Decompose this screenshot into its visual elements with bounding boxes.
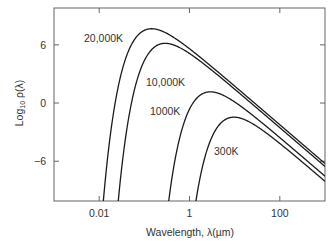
curve-labels: 20,000K10,000K1000K300K [84, 32, 239, 157]
y-tick-label: 0 [40, 97, 46, 109]
curve-label: 1000K [150, 105, 180, 117]
curve-label: 20,000K [84, 32, 123, 44]
x-tick-label: 1 [187, 207, 193, 219]
x-tick-label: 0.01 [89, 207, 110, 219]
curve-label: 300K [214, 145, 239, 157]
x-tick-label: 100 [271, 207, 289, 219]
curve-20000K [103, 29, 325, 202]
y-tick-label: −6 [34, 155, 46, 167]
curve-1000K [168, 92, 325, 205]
y-axis-label: Log10 ρ(λ) [13, 80, 26, 126]
blackbody-radiation-chart: 0.01110060−6 20,000K10,000K1000K300K Wav… [0, 0, 334, 250]
y-tick-label: 6 [40, 39, 46, 51]
planck-curves [103, 29, 325, 205]
curve-300K [195, 117, 325, 204]
x-axis-label: Wavelength, λ(µm) [146, 226, 234, 238]
curve-label: 10,000K [146, 76, 185, 88]
